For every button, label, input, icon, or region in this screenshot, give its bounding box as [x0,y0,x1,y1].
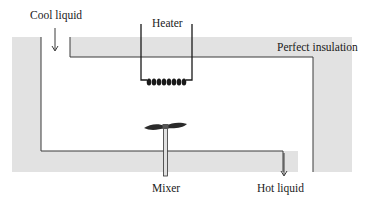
outlet-label: Hot liquid [257,183,304,195]
mixer-label: Mixer [152,183,180,195]
inlet-arrow-icon [52,28,58,51]
tank-diagram [0,0,368,205]
insulation-label: Perfect insulation [277,42,358,54]
heater-label: Heater [152,18,183,30]
inlet-label: Cool liquid [30,10,82,22]
